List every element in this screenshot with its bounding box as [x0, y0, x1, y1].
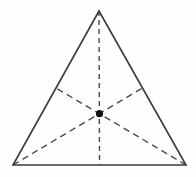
- centroid-point: [96, 110, 103, 117]
- figure-canvas: [0, 0, 196, 177]
- figure-background: [0, 0, 196, 177]
- triangle-medians-diagram: [0, 0, 196, 177]
